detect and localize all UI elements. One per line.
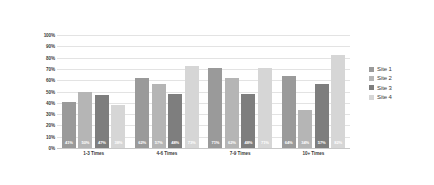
x-axis-category-label: 7-9 Times xyxy=(204,151,277,156)
bar[interactable]: 82% xyxy=(331,55,345,148)
bar[interactable]: 71% xyxy=(258,68,272,148)
bar-group: 71%62%48%71% xyxy=(204,35,277,148)
y-axis-tick: 60% xyxy=(46,78,55,83)
bar-groups: 41%50%47%38%62%57%48%73%71%62%48%71%64%3… xyxy=(57,35,350,148)
bar-value-label: 73% xyxy=(188,141,196,148)
y-axis-tick: 80% xyxy=(46,55,55,60)
bar[interactable]: 48% xyxy=(168,94,182,148)
bar[interactable]: 62% xyxy=(225,78,239,148)
legend-swatch-icon xyxy=(369,85,374,90)
bar-group: 62%57%48%73% xyxy=(130,35,203,148)
legend-item[interactable]: Site 4 xyxy=(369,94,392,100)
y-axis-tick: 70% xyxy=(46,66,55,71)
bar-value-label: 62% xyxy=(228,141,236,148)
y-axis-tick: 0% xyxy=(49,146,55,151)
bar[interactable]: 57% xyxy=(315,84,329,148)
bar-value-label: 71% xyxy=(212,141,220,148)
axis-baseline xyxy=(57,148,350,149)
bar-value-label: 62% xyxy=(138,141,146,148)
legend-swatch-icon xyxy=(369,95,374,100)
plot-area: 41%50%47%38%62%57%48%73%71%62%48%71%64%3… xyxy=(57,35,350,148)
bar[interactable]: 71% xyxy=(208,68,222,148)
legend-label: Site 3 xyxy=(377,85,392,91)
bar-value-label: 38% xyxy=(115,141,123,148)
bar-value-label: 48% xyxy=(171,141,179,148)
legend-item[interactable]: Site 3 xyxy=(369,85,392,91)
x-axis: 1-3 Times4-6 Times7-9 Times10+ Times xyxy=(57,151,350,156)
bar-value-label: 50% xyxy=(82,141,90,148)
y-axis-tick: 50% xyxy=(46,89,55,94)
x-axis-category-label: 4-6 Times xyxy=(130,151,203,156)
legend: Site 1Site 2Site 3Site 4 xyxy=(369,66,392,100)
y-axis-tick: 100% xyxy=(44,33,55,38)
legend-item[interactable]: Site 2 xyxy=(369,75,392,81)
x-axis-category-label: 10+ Times xyxy=(277,151,350,156)
legend-label: Site 2 xyxy=(377,75,392,81)
bar-value-label: 41% xyxy=(65,141,73,148)
bar[interactable]: 48% xyxy=(241,94,255,148)
bar[interactable]: 50% xyxy=(78,92,92,149)
y-axis-tick: 90% xyxy=(46,44,55,49)
bar[interactable]: 64% xyxy=(282,76,296,148)
bar-value-label: 64% xyxy=(285,141,293,148)
bar-value-label: 57% xyxy=(155,141,163,148)
y-axis-tick: 30% xyxy=(46,112,55,117)
bar[interactable]: 38% xyxy=(111,105,125,148)
bar-value-label: 34% xyxy=(301,141,309,148)
y-axis-tick: 20% xyxy=(46,123,55,128)
bar[interactable]: 47% xyxy=(95,95,109,148)
x-axis-category-label: 1-3 Times xyxy=(57,151,130,156)
legend-item[interactable]: Site 1 xyxy=(369,66,392,72)
legend-label: Site 4 xyxy=(377,94,392,100)
legend-swatch-icon xyxy=(369,67,374,72)
y-axis-tick: 10% xyxy=(46,134,55,139)
bar-chart: 100%90%80%70%60%50%40%30%20%10%0% 41%50%… xyxy=(0,0,434,185)
legend-swatch-icon xyxy=(369,76,374,81)
legend-label: Site 1 xyxy=(377,66,392,72)
bar[interactable]: 34% xyxy=(298,110,312,148)
bar[interactable]: 41% xyxy=(62,102,76,148)
bar-value-label: 47% xyxy=(98,141,106,148)
bar[interactable]: 73% xyxy=(185,66,199,148)
bar-value-label: 57% xyxy=(318,141,326,148)
y-axis-tick: 40% xyxy=(46,100,55,105)
bar-value-label: 82% xyxy=(334,141,342,148)
y-axis: 100%90%80%70%60%50%40%30%20%10%0% xyxy=(28,35,55,148)
bar-group: 64%34%57%82% xyxy=(277,35,350,148)
bar-value-label: 71% xyxy=(261,141,269,148)
bar[interactable]: 62% xyxy=(135,78,149,148)
bar[interactable]: 57% xyxy=(152,84,166,148)
bar-group: 41%50%47%38% xyxy=(57,35,130,148)
bar-value-label: 48% xyxy=(245,141,253,148)
